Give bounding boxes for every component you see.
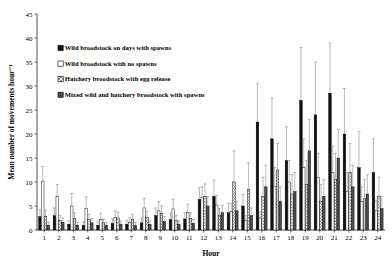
- bar: [366, 194, 369, 230]
- bar: [314, 115, 317, 230]
- bar: [140, 223, 143, 230]
- bar: [227, 213, 230, 230]
- bar: [276, 170, 279, 230]
- chart-canvas: 051015202530354045 123456789101112131415…: [0, 0, 392, 264]
- bar: [221, 213, 224, 230]
- y-tick-label: 30: [26, 83, 34, 91]
- bar: [213, 196, 216, 230]
- legend-label-1: Wild broodstock on days with spawns: [65, 44, 172, 51]
- bar: [62, 222, 65, 230]
- bar: [85, 208, 88, 230]
- bar: [346, 192, 349, 230]
- bar: [204, 196, 207, 230]
- bar: [88, 219, 91, 230]
- bar: [111, 223, 114, 230]
- y-tick-label: 25: [26, 107, 34, 115]
- x-tick-label: 14: [229, 234, 237, 242]
- x-tick-label: 21: [331, 234, 339, 242]
- bar: [175, 220, 178, 230]
- bar: [169, 219, 172, 230]
- x-axis-title: Hour: [202, 249, 220, 258]
- bar: [192, 223, 195, 230]
- bar: [250, 216, 253, 230]
- x-tick-label: 18: [287, 234, 295, 242]
- bar: [288, 182, 291, 230]
- legend-label-2: Wild broodstock with no spawns: [65, 60, 157, 67]
- legend-marker-4: [58, 92, 63, 97]
- bar: [305, 184, 308, 230]
- y-tick-label: 5: [29, 203, 33, 211]
- x-tick-label: 9: [159, 234, 163, 242]
- bar: [97, 225, 100, 230]
- x-tick-label: 20: [316, 234, 324, 242]
- x-axis-ticks: 123456789101112131415161718192021222324: [43, 230, 382, 242]
- bar: [218, 216, 221, 230]
- bar: [47, 225, 50, 230]
- bar: [91, 223, 94, 230]
- bar: [131, 219, 134, 230]
- bar: [265, 187, 268, 230]
- x-tick-label: 6: [115, 234, 119, 242]
- bar: [114, 218, 117, 230]
- bar: [155, 216, 158, 230]
- bar: [117, 218, 120, 230]
- y-tick-label: 10: [26, 179, 34, 187]
- bar: [236, 211, 239, 230]
- bar: [70, 206, 73, 230]
- bar: [302, 168, 305, 230]
- bar: [372, 172, 375, 230]
- x-tick-label: 24: [374, 234, 382, 242]
- y-tick-label: 20: [26, 131, 34, 139]
- bar: [256, 122, 259, 230]
- bar: [308, 151, 311, 230]
- bar-chart-figure: 051015202530354045 123456789101112131415…: [0, 0, 392, 264]
- bar: [184, 219, 187, 230]
- bar: [160, 214, 163, 230]
- bar: [198, 199, 201, 230]
- bar: [207, 206, 210, 230]
- bar: [178, 224, 181, 230]
- x-tick-label: 10: [171, 234, 179, 242]
- bar: [126, 224, 129, 230]
- bar: [334, 180, 337, 230]
- bar: [262, 196, 265, 230]
- bar: [244, 220, 247, 230]
- bar: [201, 197, 204, 230]
- y-tick-label: 35: [26, 59, 34, 67]
- x-tick-label: 12: [200, 234, 208, 242]
- legend-marker-1: [58, 45, 63, 50]
- y-tick-label: 40: [26, 35, 34, 43]
- bar: [102, 223, 105, 230]
- x-tick-label: 15: [244, 234, 252, 242]
- bar: [105, 225, 108, 230]
- legend-marker-2: [58, 61, 63, 66]
- x-tick-label: 7: [130, 234, 134, 242]
- bar: [143, 208, 146, 230]
- legend-label-3: Hatchery broodstock with egg release: [65, 75, 171, 82]
- x-tick-label: 11: [186, 234, 193, 242]
- bar: [163, 221, 166, 230]
- bar: [247, 189, 250, 230]
- bar: [215, 205, 218, 230]
- bar: [134, 225, 137, 230]
- bar: [363, 199, 366, 230]
- x-tick-label: 16: [258, 234, 266, 242]
- bar: [76, 225, 79, 230]
- bar: [375, 211, 378, 230]
- bar: [358, 168, 361, 230]
- bar: [189, 218, 192, 230]
- bar: [349, 172, 352, 230]
- bar: [285, 160, 288, 230]
- bar: [186, 213, 189, 230]
- bar: [68, 224, 71, 230]
- x-tick-label: 19: [302, 234, 310, 242]
- bar: [271, 139, 274, 230]
- bar: [323, 196, 326, 230]
- bar: [120, 224, 123, 230]
- bar: [242, 206, 245, 230]
- bar: [233, 182, 236, 230]
- legend-marker-3: [58, 77, 63, 82]
- bar: [172, 209, 175, 230]
- y-tick-label: 0: [29, 227, 33, 235]
- y-tick-label: 15: [26, 155, 34, 163]
